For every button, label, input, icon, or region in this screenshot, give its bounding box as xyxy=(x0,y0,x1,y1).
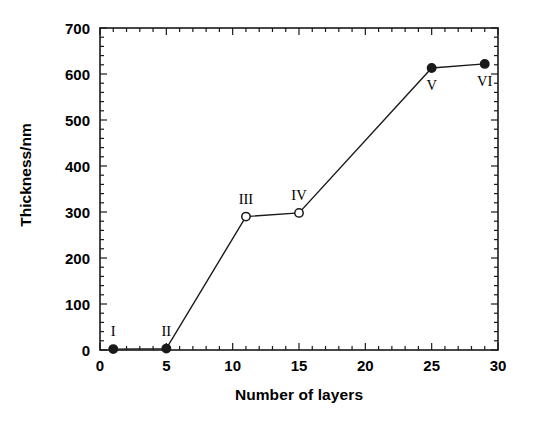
data-point-marker xyxy=(162,344,170,352)
data-point-marker xyxy=(427,64,435,72)
y-tick-label: 400 xyxy=(65,158,90,175)
y-tick-label: 700 xyxy=(65,20,90,37)
x-tick-label: 10 xyxy=(224,357,241,374)
point-annotation-label: II xyxy=(161,323,171,339)
x-axis-title-wrapper: Number of layers xyxy=(100,386,498,404)
point-annotations: IIIIIIIVVVI xyxy=(111,73,493,339)
point-annotation-label: VI xyxy=(477,73,492,89)
figure-container: 0100200300400500600700 051015202530 IIII… xyxy=(0,0,538,421)
point-annotation-label: IV xyxy=(291,187,307,203)
x-tick-label: 20 xyxy=(357,357,374,374)
x-tick-label: 30 xyxy=(490,357,507,374)
data-point-marker xyxy=(242,212,250,220)
point-annotation-label: V xyxy=(426,77,437,93)
y-tick-label: 200 xyxy=(65,250,90,267)
y-tick-label: 100 xyxy=(65,296,90,313)
data-point-marker xyxy=(481,60,489,68)
x-tick-label: 25 xyxy=(423,357,440,374)
point-annotation-label: III xyxy=(239,191,254,207)
chart-canvas: 0100200300400500600700 051015202530 IIII… xyxy=(0,0,538,421)
x-tick-labels: 051015202530 xyxy=(96,357,507,374)
x-axis-title: Number of layers xyxy=(235,386,363,403)
data-series-line xyxy=(113,64,484,349)
data-point-marker xyxy=(109,345,117,353)
y-tick-labels: 0100200300400500600700 xyxy=(65,20,90,359)
y-tick-label: 0 xyxy=(82,342,90,359)
point-annotation-label: I xyxy=(111,323,116,339)
y-tick-label: 300 xyxy=(65,204,90,221)
y-tick-label: 600 xyxy=(65,66,90,83)
x-tick-label: 15 xyxy=(291,357,308,374)
y-tick-label: 500 xyxy=(65,112,90,129)
x-tick-label: 5 xyxy=(162,357,170,374)
data-series-markers xyxy=(109,60,489,354)
data-point-marker xyxy=(295,209,303,217)
x-tick-label: 0 xyxy=(96,357,104,374)
